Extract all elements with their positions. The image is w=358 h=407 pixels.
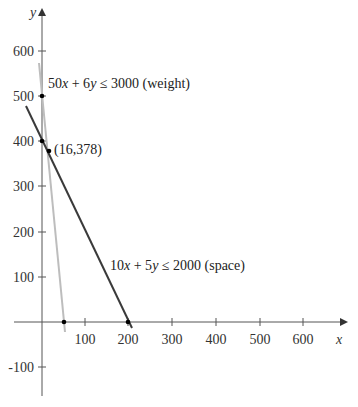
x-axis-label: x — [335, 332, 343, 347]
y-tick-label: 500 — [13, 89, 34, 104]
chart-canvas: y x 600 500 400 300 200 100 -100 100 200… — [0, 0, 358, 407]
y-tick-label: 400 — [13, 134, 34, 149]
x-tick-label: 600 — [293, 332, 314, 347]
y-tick-label: -100 — [8, 360, 34, 375]
y-tick-label: 200 — [13, 225, 34, 240]
y-tick-label: 600 — [13, 44, 34, 59]
weight-y-intercept-point — [40, 94, 45, 99]
intersection-label: (16,378) — [54, 142, 102, 158]
x-axis-arrow-icon — [340, 318, 348, 326]
space-x-intercept-point — [126, 320, 131, 325]
space-y-intercept-point — [40, 139, 45, 144]
weight-x-intercept-point — [62, 320, 67, 325]
x-tick-label: 200 — [118, 332, 139, 347]
weight-constraint-line — [39, 63, 65, 332]
weight-constraint-label: 50x + 6y ≤ 3000 (weight) — [48, 76, 190, 92]
x-tick-label: 500 — [250, 332, 271, 347]
x-tick-label: 100 — [75, 332, 96, 347]
x-tick-label: 400 — [206, 332, 227, 347]
x-tick-label: 300 — [162, 332, 183, 347]
y-axis-arrow-icon — [38, 8, 46, 16]
space-constraint-label: 10x + 5y ≤ 2000 (space) — [110, 258, 245, 274]
y-axis-label: y — [28, 5, 37, 20]
y-tick-label: 100 — [13, 270, 34, 285]
y-tick-label: 300 — [13, 179, 34, 194]
intersection-point — [47, 149, 52, 154]
